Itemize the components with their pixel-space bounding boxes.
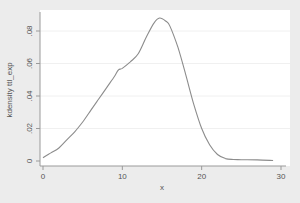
x-tick-label: 10	[118, 172, 127, 181]
y-tick-label: .04	[25, 90, 34, 102]
plot-region	[40, 10, 290, 166]
y-axis-title: kdensity ttl_exp	[5, 62, 14, 118]
y-tick-label: .02	[25, 122, 34, 134]
x-axis-title: x	[160, 183, 164, 192]
x-tick-label: 20	[197, 172, 206, 181]
density-chart: 0.02.04.06.080102030 x kdensity ttl_exp	[0, 0, 300, 203]
y-tick-label: 0	[25, 158, 34, 163]
x-tick-label: 30	[277, 172, 286, 181]
y-tick-label: .06	[25, 57, 34, 69]
x-tick-label: 0	[41, 172, 46, 181]
y-tick-label: .08	[25, 25, 34, 37]
